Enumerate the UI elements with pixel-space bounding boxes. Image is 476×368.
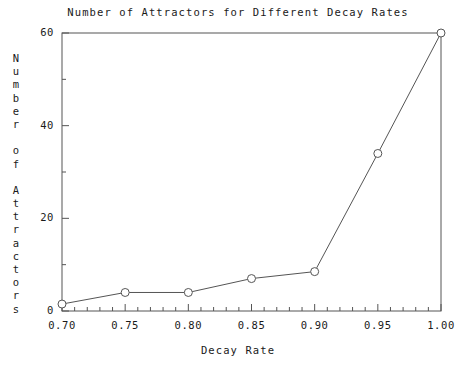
x-tick-label: 0.80 [158, 319, 218, 331]
chart-figure: Number of Attractors for Different Decay… [0, 0, 476, 368]
data-point-marker [248, 275, 256, 283]
data-series [58, 29, 445, 308]
plot-area [0, 0, 476, 368]
x-tick-label: 0.85 [222, 319, 282, 331]
x-tick-label: 0.75 [95, 319, 155, 331]
y-tick-label: 0 [20, 304, 54, 316]
data-point-marker [311, 268, 319, 276]
axes-frame [62, 33, 441, 311]
x-tick-label: 1.00 [411, 319, 471, 331]
data-point-marker [58, 300, 66, 308]
data-point-marker [121, 288, 129, 296]
data-point-marker [437, 29, 445, 37]
plot-frame [62, 33, 441, 311]
data-point-marker [184, 288, 192, 296]
axis-ticks [62, 33, 441, 311]
x-tick-label: 0.95 [348, 319, 408, 331]
y-tick-label: 20 [20, 211, 54, 223]
data-point-marker [374, 149, 382, 157]
x-tick-label: 0.90 [285, 319, 345, 331]
y-tick-label: 40 [20, 119, 54, 131]
y-tick-label: 60 [20, 26, 54, 38]
x-tick-label: 0.70 [32, 319, 92, 331]
series-line [62, 33, 441, 304]
